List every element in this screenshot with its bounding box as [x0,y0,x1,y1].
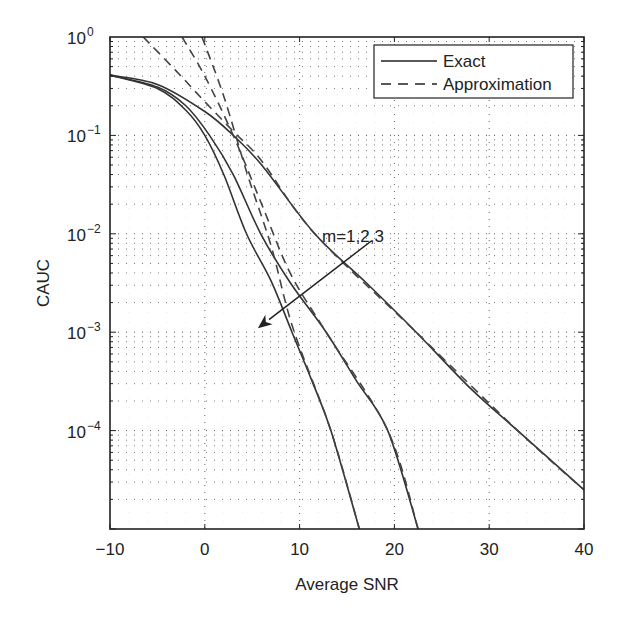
annotation-arrow [269,241,372,320]
series-curve [110,75,359,529]
y-tick-exponent: −3 [87,320,101,334]
chart: −10010203040 10010−110−210−310−4 Average… [0,0,619,617]
data-curves [110,37,584,529]
y-tick-exponent: −4 [87,419,101,433]
axis-ticks [110,37,584,529]
x-tick-label: 10 [290,540,309,559]
y-axis-title: CAUC [34,259,53,307]
y-tick-exponent: −2 [87,222,101,236]
y-tick-label: 10 [67,324,86,343]
x-tick-label: 30 [480,540,499,559]
plot-frame [110,37,584,529]
x-tick-label: 20 [385,540,404,559]
annotation-label: m=1,2,3 [322,227,384,246]
y-tick-exponent: 0 [87,25,94,39]
y-tick-exponent: −1 [87,123,101,137]
y-tick-label: 10 [67,29,86,48]
x-tick-label: −10 [96,540,125,559]
legend-entry-approximation: Approximation [443,75,552,94]
y-tick-labels: 10010−110−210−310−4 [67,25,101,442]
x-tick-label: 0 [200,540,209,559]
series-curve [110,75,584,490]
grid-lines [110,37,584,529]
series-curve [182,37,418,529]
x-tick-labels: −10010203040 [96,540,594,559]
y-tick-label: 10 [67,226,86,245]
x-tick-label: 40 [575,540,594,559]
legend-entry-exact: Exact [443,52,486,71]
legend: Exact Approximation [374,45,573,98]
series-curve [110,75,418,529]
x-axis-title: Average SNR [295,575,399,594]
y-tick-label: 10 [67,127,86,146]
arrow-head-icon [258,315,273,328]
y-tick-label: 10 [67,423,86,442]
series-curve [143,37,584,490]
